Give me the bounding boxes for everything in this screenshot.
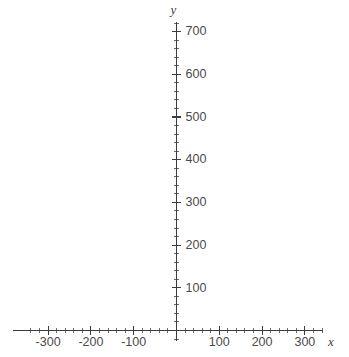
- coordinate-plane-svg: -300-200-100100200300 100200300400500600…: [0, 0, 349, 357]
- y-tick-label: 300: [186, 195, 207, 209]
- x-tick-label: 300: [294, 335, 315, 349]
- x-tick-label: 100: [209, 335, 230, 349]
- y-tick-label: 200: [186, 238, 207, 252]
- y-tick-label: 600: [186, 67, 207, 81]
- y-axis-label: y: [169, 2, 177, 17]
- x-tick-label: -300: [36, 335, 61, 349]
- y-tick-label: 100: [186, 281, 207, 295]
- x-tick-label: -200: [78, 335, 103, 349]
- y-tick-label: 400: [186, 152, 207, 166]
- y-tick-label: 500: [186, 110, 207, 124]
- y-tick-label: 700: [186, 24, 207, 38]
- coordinate-plane-figure: -300-200-100100200300 100200300400500600…: [0, 0, 349, 357]
- figure-background: [0, 0, 349, 357]
- x-tick-label: 200: [252, 335, 273, 349]
- x-tick-label: -100: [121, 335, 146, 349]
- x-axis-label: x: [327, 334, 334, 349]
